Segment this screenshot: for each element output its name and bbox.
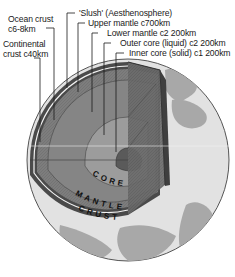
earth-structure-diagram: CORE MANTLE CRUST Ocean crust c [0, 0, 235, 277]
inner-core-label: Inner core (solid) c1 200km [129, 48, 230, 58]
slush-label: 'Slush' (Aesthenosphere) [79, 8, 172, 18]
continental-crust-label: Continental crust c40km [3, 39, 48, 59]
ocean-crust-label: Ocean crust c6-8km [8, 14, 53, 34]
outer-core-label: Outer core (liquid) c2 200km [120, 38, 226, 48]
upper-mantle-label: Upper mantle c700km [88, 18, 170, 28]
lower-mantle-label: Lower mantle c2 200km [107, 28, 196, 38]
